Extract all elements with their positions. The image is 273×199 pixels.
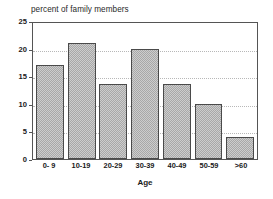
bar	[68, 43, 96, 159]
x-axis-tick-label: >60	[225, 161, 257, 171]
bar-slot	[34, 23, 66, 159]
bar	[99, 84, 127, 159]
y-axis-tick-label: 15	[19, 72, 27, 81]
bar-slot	[129, 23, 161, 159]
y-axis-tick-label: 20	[19, 45, 27, 54]
bar-slot	[66, 23, 98, 159]
x-axis-tick-label: 20-29	[97, 161, 129, 171]
x-axis-tick-label: 0- 9	[33, 161, 65, 171]
bar	[36, 65, 64, 159]
x-axis-title: Age	[32, 178, 258, 187]
x-axis-tick-label: 30-39	[129, 161, 161, 171]
bar-slot	[161, 23, 193, 159]
y-axis-tick-label: 25	[19, 17, 27, 26]
bar	[226, 137, 254, 159]
bar-slot	[193, 23, 225, 159]
bar	[131, 49, 159, 159]
y-axis-tick-label: 10	[19, 100, 27, 109]
y-axis-tick-label: 0	[23, 155, 27, 164]
x-axis-tick-labels: 0- 910-1920-2930-3940-4950-59>60	[32, 161, 258, 171]
bar	[195, 104, 223, 159]
bar-series	[33, 23, 257, 159]
y-axis-tick-label: 5	[23, 127, 27, 136]
x-axis-tick-label: 40-49	[161, 161, 193, 171]
x-axis-tick-label: 50-59	[193, 161, 225, 171]
bar-slot	[97, 23, 129, 159]
y-axis: 0510152025	[0, 22, 32, 160]
chart-title: percent of family members	[31, 5, 129, 14]
bar-slot	[224, 23, 256, 159]
bar-chart: percent of family members 0510152025 0- …	[0, 0, 273, 199]
x-axis-tick-label: 10-19	[65, 161, 97, 171]
bar	[163, 84, 191, 159]
plot-area	[32, 22, 258, 160]
